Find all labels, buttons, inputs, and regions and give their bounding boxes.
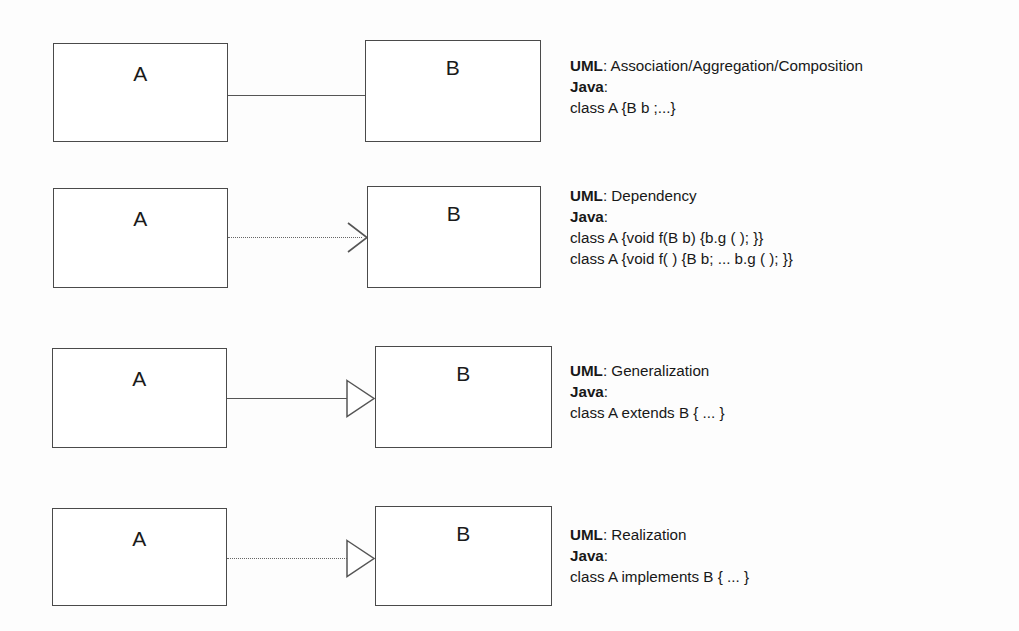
annotation-java-line: Java: <box>570 381 725 402</box>
java-keyword: Java <box>570 383 604 400</box>
annotation-java-line: Java: <box>570 545 749 566</box>
uml-value: Realization <box>611 526 686 543</box>
uml-value: Generalization <box>611 362 709 379</box>
uml-relationship-diagram: A B UML: Association/Aggregation/Composi… <box>0 0 1019 631</box>
uml-value: Association/Aggregation/Composition <box>611 57 863 74</box>
class-box-b-generalization: B <box>375 346 552 448</box>
class-box-a-dependency: A <box>53 188 228 288</box>
annotation-java-line: Java: <box>570 206 793 227</box>
annotation-generalization: UML: Generalization Java: class A extend… <box>570 360 725 423</box>
annotation-realization: UML: Realization Java: class A implement… <box>570 524 749 587</box>
uml-keyword: UML <box>570 526 603 543</box>
hollow-triangle-arrowhead-icon <box>346 539 376 578</box>
java-separator: : <box>604 208 608 225</box>
class-box-a-association: A <box>53 43 228 142</box>
class-box-label: A <box>53 527 226 551</box>
class-box-b-association: B <box>365 40 541 142</box>
annotation-code-line: class A {B b ;...} <box>570 97 863 118</box>
uml-keyword: UML <box>570 57 603 74</box>
java-keyword: Java <box>570 547 604 564</box>
java-separator: : <box>604 78 608 95</box>
class-box-label: B <box>368 202 540 226</box>
class-box-label: B <box>376 522 551 546</box>
class-box-b-realization: B <box>375 506 552 606</box>
uml-keyword: UML <box>570 187 603 204</box>
annotation-uml-line: UML: Generalization <box>570 360 725 381</box>
connector-line-association <box>228 95 365 96</box>
java-separator: : <box>604 383 608 400</box>
connector-line-realization <box>227 558 347 559</box>
java-separator: : <box>604 547 608 564</box>
uml-value: Dependency <box>611 187 696 204</box>
class-box-a-realization: A <box>52 508 227 606</box>
class-box-a-generalization: A <box>52 348 227 448</box>
annotation-uml-line: UML: Dependency <box>570 185 793 206</box>
annotation-association: UML: Association/Aggregation/Composition… <box>570 55 863 118</box>
connector-line-dependency <box>228 237 362 238</box>
java-keyword: Java <box>570 208 604 225</box>
hollow-triangle-arrowhead-icon <box>346 379 376 418</box>
class-box-label: A <box>54 62 227 86</box>
annotation-java-line: Java: <box>570 76 863 97</box>
annotation-uml-line: UML: Association/Aggregation/Composition <box>570 55 863 76</box>
uml-keyword: UML <box>570 362 603 379</box>
uml-separator: : <box>603 57 611 74</box>
annotation-uml-line: UML: Realization <box>570 524 749 545</box>
class-box-label: A <box>53 367 226 391</box>
connector-line-generalization <box>227 398 347 399</box>
annotation-code-line: class A {void f( ) {B b; ... b.g ( ); }} <box>570 248 793 269</box>
class-box-b-dependency: B <box>367 186 541 288</box>
class-box-label: A <box>54 207 227 231</box>
annotation-code-line: class A implements B { ... } <box>570 566 749 587</box>
class-box-label: B <box>366 56 540 80</box>
annotation-code-line: class A {void f(B b) {b.g ( ); }} <box>570 227 793 248</box>
java-keyword: Java <box>570 78 604 95</box>
class-box-label: B <box>376 362 551 386</box>
annotation-code-line: class A extends B { ... } <box>570 402 725 423</box>
annotation-dependency: UML: Dependency Java: class A {void f(B … <box>570 185 793 269</box>
